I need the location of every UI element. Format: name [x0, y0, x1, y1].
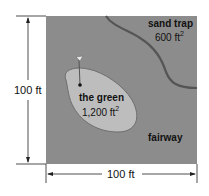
- green-area-value: 1,200 ft: [82, 107, 115, 118]
- sand-trap-label: sand trap: [148, 18, 193, 29]
- green-area: 1,200 ft2: [82, 107, 119, 118]
- sand-trap-area-exponent: 2: [180, 30, 184, 37]
- height-label: 100 ft: [14, 84, 42, 96]
- green-area-exponent: 2: [115, 105, 119, 112]
- width-label: 100 ft: [107, 168, 135, 180]
- sand-trap-area: 600 ft2: [155, 32, 184, 43]
- fairway-label: fairway: [148, 132, 182, 143]
- green-label: the green: [79, 92, 124, 103]
- sand-trap-area-value: 600 ft: [155, 32, 180, 43]
